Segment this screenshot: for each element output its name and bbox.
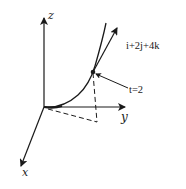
x-axis-label: x	[22, 166, 29, 179]
point-t2	[91, 70, 96, 75]
z-axis-label: z	[47, 9, 54, 22]
point-t2-label: t=2	[129, 84, 143, 95]
projection-dashed-base	[48, 109, 97, 122]
tangent-vector	[93, 28, 117, 72]
projection-dashed-vertical	[93, 73, 97, 122]
x-axis	[21, 107, 44, 166]
y-axis-label: y	[120, 110, 128, 124]
tangent-vector-label: i+2j+4k	[126, 40, 160, 51]
curve-tangent-diagram: z y x i+2j+4k t=2	[0, 0, 186, 189]
point-leader-arrow	[96, 74, 128, 88]
